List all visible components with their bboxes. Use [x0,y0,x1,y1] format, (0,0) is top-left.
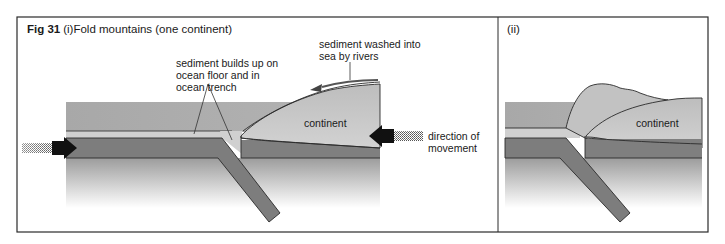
label-sediment-builds-1: sediment builds up on [176,57,278,69]
panel-ii-tag: (ii) [507,23,520,35]
label-sediment-washed-1: sediment washed into [319,38,421,50]
fold-mountains-diagram: Fig 31(i)Fold mountains (one continent) … [0,0,725,244]
panel-i: sediment builds up on ocean floor and in… [22,38,479,222]
label-direction-1: direction of [428,130,479,142]
label-sediment-washed-2: sea by rivers [319,50,379,62]
figure-title: Fig 31(i)Fold mountains (one continent) [27,23,232,35]
label-direction-2: movement [428,142,477,154]
label-sediment-builds-2: ocean floor and in [176,69,260,81]
label-continent-ii: continent [636,117,679,129]
mantle [66,158,380,208]
arrow-tail-right [392,131,423,141]
panel-ii: continent [505,84,702,222]
river-sediment-arrow [310,84,322,92]
label-continent-i: continent [304,117,347,129]
sediment-layer [66,131,241,138]
label-sediment-builds-3: ocean trench [176,81,237,93]
